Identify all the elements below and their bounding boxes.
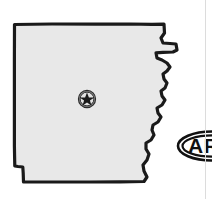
page-edge-divider: [205, 0, 206, 199]
badge-abbreviation-label: AR: [188, 134, 212, 157]
state-shape-group: [14, 24, 177, 182]
capital-marker-group[interactable]: [78, 90, 95, 107]
state-abbreviation-badge[interactable]: AR: [178, 132, 212, 161]
arkansas-map-graphic: AR: [0, 0, 212, 199]
map-canvas: AR: [0, 0, 212, 199]
arkansas-state-outline[interactable]: [14, 24, 177, 182]
